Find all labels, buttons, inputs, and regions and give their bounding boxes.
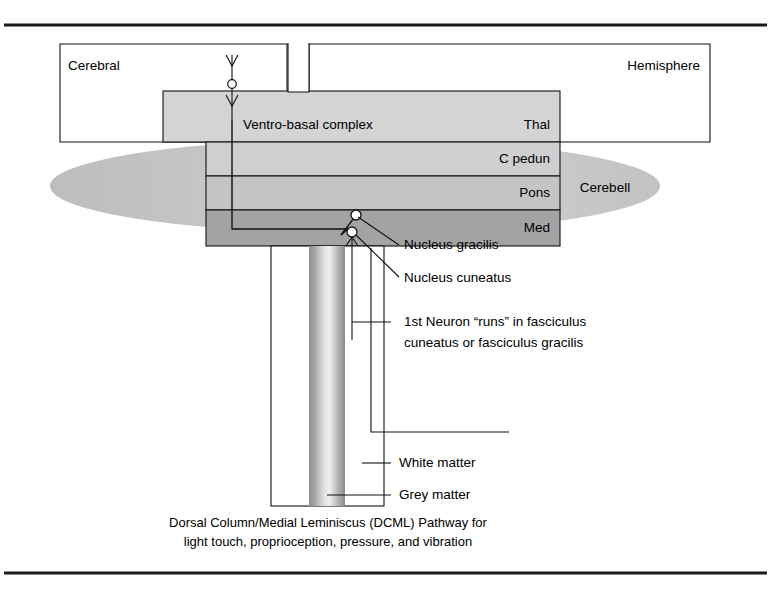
caption-line-1: Dorsal Column/Medial Leminiscus (DCML) P…	[169, 515, 488, 530]
label-pons: Pons	[519, 185, 550, 200]
label-hemisphere: Hemisphere	[627, 58, 700, 73]
medulla-segment	[206, 210, 560, 246]
label-ventro-basal-complex: Ventro-basal complex	[243, 117, 373, 132]
annotation-first-neuron-line2: cuneatus or fasciculus gracilis	[404, 335, 584, 350]
dcml-pathway-figure: Cerebral Hemisphere Ventro-basal complex…	[0, 0, 771, 589]
annotation-grey-matter: Grey matter	[399, 487, 471, 502]
caption-line-2: light touch, proprioception, pressure, a…	[184, 534, 472, 549]
pons-segment	[206, 176, 560, 210]
label-cerebellum: Cerebell	[580, 180, 630, 195]
annotation-nucleus-gracilis: Nucleus gracilis	[404, 237, 499, 252]
label-cerebral: Cerebral	[68, 58, 120, 73]
spinal-cord-grey-matter	[309, 246, 345, 506]
label-medulla: Med	[524, 220, 550, 235]
label-thalamus: Thal	[524, 117, 550, 132]
annotation-first-neuron-line1: 1st Neuron “runs” in fasciculus	[404, 314, 587, 329]
diagram-canvas: Cerebral Hemisphere Ventro-basal complex…	[0, 0, 771, 589]
third-neuron-soma-icon	[228, 80, 237, 89]
annotation-white-matter: White matter	[399, 455, 476, 470]
midline-notch-fill	[288, 43, 309, 92]
label-cerebral-peduncle: C pedun	[499, 151, 550, 166]
nucleus-cuneatus-marker	[347, 227, 357, 237]
annotation-nucleus-cuneatus: Nucleus cuneatus	[404, 270, 512, 285]
